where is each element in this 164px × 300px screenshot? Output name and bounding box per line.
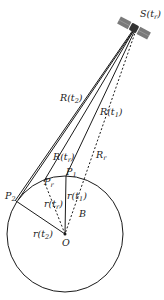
label-R-t2: R(t2) [59,92,83,105]
center-point-O [64,233,67,236]
satellite-geometry-diagram: S(tr) R(t2) R(t1) R(tr) Rr P1 P2 Pr r(t1… [0,0,164,300]
label-P2: P2 [4,190,16,203]
label-r-t2: r(t2) [33,228,53,241]
label-satellite: S(tr) [140,8,161,21]
label-r-t1: r(t1) [67,190,87,203]
satellite-icon [117,16,151,39]
label-O: O [62,237,70,248]
label-Pr: Pr [43,176,54,189]
label-B: B [78,208,86,219]
label-R-r: Rr [95,149,107,162]
label-R-t1: R(t1) [99,106,123,119]
label-r-tr: r(tr) [44,198,63,211]
label-P1: P1 [65,166,77,179]
range-line-R-r-dashed [65,30,136,234]
radius-r-t1 [65,176,66,234]
